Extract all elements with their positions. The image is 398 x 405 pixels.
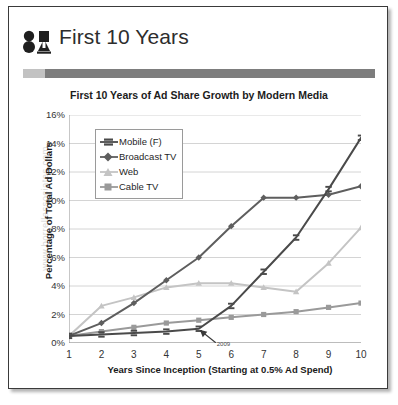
y-axis-tick-label: 6% <box>23 253 65 263</box>
borrell-ba-logo-icon <box>23 30 53 54</box>
x-axis-tick-label: 10 <box>349 350 373 360</box>
x-axis-tick-label: 2 <box>89 350 113 360</box>
data-point-marker <box>358 301 361 306</box>
legend-marker-web-icon <box>99 166 119 178</box>
data-point-marker <box>294 309 299 314</box>
data-point-marker <box>358 224 361 230</box>
legend-label-mobile: Mobile (F) <box>119 136 162 147</box>
slide-frame: First 10 Years www.borrellassociates.com… <box>8 6 388 389</box>
y-axis-tick-label: 8% <box>23 224 65 234</box>
y-axis-tick-label: 10% <box>23 196 65 206</box>
legend-item[interactable]: Web <box>99 164 176 179</box>
data-point-marker <box>164 320 169 325</box>
y-axis-tick-label: 12% <box>23 167 65 177</box>
x-axis-tick-label: 6 <box>219 350 243 360</box>
y-axis-tick-label: 16% <box>23 110 65 120</box>
slide-header: First 10 Years <box>9 7 387 69</box>
legend-item[interactable]: Cable TV <box>99 179 176 194</box>
page-title: First 10 Years <box>59 25 189 49</box>
data-point-marker <box>229 315 234 320</box>
y-axis-tick-label: 0% <box>23 338 65 348</box>
x-axis-label: Years Since Inception (Starting at 0.5% … <box>65 364 375 375</box>
data-point-marker <box>326 305 331 310</box>
x-axis-tick-label: 1 <box>57 350 81 360</box>
annotation-arrowhead <box>200 330 208 338</box>
data-point-marker <box>196 318 201 323</box>
legend-marker-broadcast-tv-icon <box>99 151 119 163</box>
y-axis-tick-label: 2% <box>23 310 65 320</box>
legend-label-web: Web <box>119 166 138 177</box>
series-cable-tv <box>69 301 361 339</box>
x-axis-tick-label: 3 <box>122 350 146 360</box>
legend-label-broadcast-tv: Broadcast TV <box>119 151 176 162</box>
legend-item[interactable]: Broadcast TV <box>99 149 176 164</box>
data-point-marker <box>293 194 299 200</box>
x-axis-tick-label: 9 <box>317 350 341 360</box>
y-axis-tick-label: 4% <box>23 281 65 291</box>
chart-title: First 10 Years of Ad Share Growth by Mod… <box>23 89 375 101</box>
annotation-label-2009: 2009 <box>217 341 230 347</box>
header-divider <box>23 69 375 78</box>
legend-marker-cable-tv-icon <box>99 181 119 193</box>
legend-item[interactable]: Mobile (F) <box>99 134 176 149</box>
data-point-marker <box>358 183 361 189</box>
y-axis-tick-label: 14% <box>23 139 65 149</box>
x-axis-tick-label: 4 <box>154 350 178 360</box>
data-point-marker <box>261 312 266 317</box>
chart-legend: Mobile (F) Broadcast TV <box>95 129 183 199</box>
x-axis-tick-label: 8 <box>284 350 308 360</box>
legend-label-cable-tv: Cable TV <box>119 181 158 192</box>
legend-marker-mobile-icon <box>99 136 119 148</box>
data-point-marker <box>131 325 136 330</box>
x-axis-tick-label: 7 <box>252 350 276 360</box>
chart-container: First 10 Years of Ad Share Growth by Mod… <box>23 85 375 381</box>
header-divider-cap <box>23 69 45 78</box>
x-axis-tick-label: 5 <box>187 350 211 360</box>
